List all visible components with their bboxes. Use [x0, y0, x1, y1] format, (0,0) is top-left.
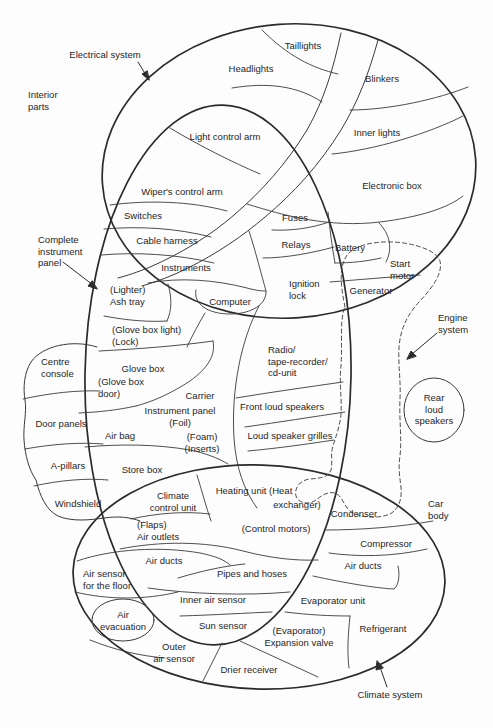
diagram-curves — [0, 0, 493, 728]
sep-centre-console-bottom — [23, 391, 100, 399]
label-heating-unit-line1: Heating unit (Heat — [216, 485, 293, 497]
label-cable-harness: Cable harness — [136, 235, 197, 247]
label-heating-unit-line2: exchanger) — [273, 499, 321, 511]
label-inner-air-sensor: Inner air sensor — [180, 594, 246, 606]
label-loud-speaker-grilles: Loud speaker grilles — [247, 430, 332, 442]
sep-floor-sensor-bottom — [75, 592, 178, 598]
label-relays: Relays — [281, 239, 310, 251]
label-foam-inserts: (Foam) (Inserts) — [185, 431, 220, 454]
label-sun-sensor: Sun sensor — [199, 620, 247, 632]
label-air-sensor-floor: Air sensor for the floor — [83, 568, 131, 591]
sep-battery-right — [379, 223, 390, 262]
sep-airbag-top — [79, 406, 136, 413]
sep-ignition-left — [249, 231, 266, 291]
label-climate-control-unit: Climate control unit — [150, 490, 196, 513]
label-outer-air-sensor: Outer air sensor — [153, 641, 195, 664]
sep-ashtray-right — [167, 284, 171, 321]
sep-blinkers — [350, 87, 468, 110]
label-pipes-and-hoses: Pipes and hoses — [217, 568, 287, 580]
label-a-pillars: A-pillars — [51, 460, 85, 472]
label-glove-box-light-lock: (Glove box light) (Lock) — [112, 324, 181, 347]
climate-system-arrowhead — [376, 661, 383, 670]
label-car-body: Car body — [428, 498, 449, 521]
diagram-canvas: Electrical system Interior parts Taillig… — [0, 0, 493, 728]
electrical-system-arrowhead — [142, 71, 149, 80]
label-computer: Computer — [209, 296, 251, 308]
label-store-box: Store box — [122, 464, 163, 476]
sep-expansion-refrigerant — [348, 616, 350, 668]
label-headlights: Headlights — [229, 63, 274, 75]
sep-front-speakers-top — [236, 382, 343, 398]
label-climate-system: Climate system — [358, 689, 423, 701]
sep-electronic-box — [247, 196, 463, 224]
label-air-ducts-right: Air ducts — [345, 560, 382, 572]
sep-drier-left — [203, 643, 222, 681]
label-front-loud-speakers: Front loud speakers — [240, 401, 324, 413]
label-rear-loud-speakers: Rear loud speakers — [415, 392, 454, 427]
label-windshield: Windshield — [55, 498, 101, 510]
label-lighter-ash-tray: (Lighter) Ash tray — [110, 284, 145, 307]
label-air-evacuation: Air evacuation — [100, 609, 146, 632]
sep-a-pillars-bottom — [34, 479, 108, 486]
sep-battery-bottom — [335, 258, 381, 263]
label-glove-box-door: (Glove box door) — [98, 376, 144, 399]
label-instrument-panel-foil: Instrument panel (Foil) — [145, 405, 216, 428]
label-evaporator-expansion: (Evaporator) Expansion valve — [264, 625, 333, 648]
label-air-ducts-left: Air ducts — [146, 555, 183, 567]
label-interior-parts: Interior parts — [28, 89, 58, 112]
label-evaporator-unit: Evaporator unit — [301, 595, 365, 607]
label-control-motors: (Control motors) — [242, 523, 311, 535]
label-electronic-box: Electronic box — [362, 180, 422, 192]
sep-ashtray-bottom — [104, 316, 167, 321]
label-fuses: Fuses — [282, 212, 308, 224]
label-ignition-lock: Ignition lock — [289, 278, 320, 301]
label-inner-lights: Inner lights — [354, 127, 400, 139]
label-air-bag: Air bag — [105, 430, 135, 442]
label-taillights: Taillights — [285, 40, 321, 52]
sep-speaker-grilles-top — [245, 412, 345, 427]
label-carrier: Carrier — [185, 390, 214, 402]
sep-inner-air-sensor-top — [148, 588, 290, 594]
label-wipers-control-arm: Wiper's control arm — [141, 186, 223, 198]
label-generator: Generator — [350, 285, 393, 297]
label-electrical-system: Electrical system — [69, 49, 140, 61]
sep-sun-sensor-top — [180, 612, 272, 616]
label-door-panels: Door panels — [35, 418, 86, 430]
label-condenser: Condenser — [331, 508, 377, 520]
label-engine-system: Engine system — [438, 312, 468, 335]
label-start-motor: Start motor — [390, 258, 414, 281]
climate-system-arrow — [380, 667, 387, 687]
label-compressor: Compressor — [360, 538, 412, 550]
label-glove-box: Glove box — [122, 363, 165, 375]
sep-headlights — [232, 85, 322, 102]
engine-system-arrow — [411, 333, 437, 355]
label-instruments: Instruments — [161, 262, 211, 274]
label-switches: Switches — [124, 210, 162, 222]
label-light-control-arm: Light control arm — [190, 131, 261, 143]
label-complete-instrument-panel: Complete instrument panel — [38, 234, 82, 269]
label-refrigerant: Refrigerant — [360, 623, 407, 635]
label-drier-receiver: Drier receiver — [220, 664, 277, 676]
label-radio-tape-cd: Radio/ tape-recorder/ cd-unit — [268, 344, 328, 379]
label-flaps-air-outlets: (Flaps) Air outlets — [137, 519, 179, 542]
sep-evaporator-bottom — [285, 612, 350, 616]
label-blinkers: Blinkers — [365, 73, 399, 85]
label-battery: Battery — [335, 242, 365, 254]
computer-cell-tail — [187, 313, 205, 347]
label-centre-console: Centre console — [41, 356, 74, 379]
sep-compressor-bottom — [329, 549, 427, 556]
